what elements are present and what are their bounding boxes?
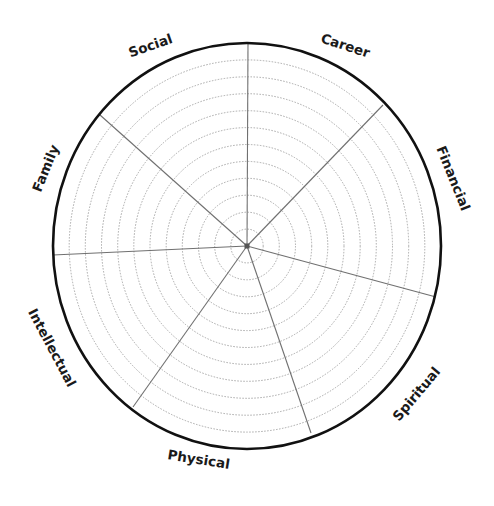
- label-intellectual: Intellectual: [25, 306, 80, 390]
- spoke-line: [247, 105, 383, 246]
- spoke-line: [100, 115, 247, 246]
- label-career: Career: [319, 30, 372, 61]
- label-social: Social: [126, 30, 174, 60]
- spoke-line: [247, 246, 311, 433]
- spoke-line: [247, 43, 248, 246]
- label-physical: Physical: [167, 446, 231, 472]
- spoke-line: [247, 246, 436, 297]
- label-family: Family: [29, 142, 63, 194]
- spoke-line: [133, 246, 247, 407]
- life-wheel-diagram: Social Career Financial Spiritual Physic…: [0, 0, 494, 506]
- label-financial: Financial: [433, 143, 474, 213]
- center-hub: [245, 244, 250, 249]
